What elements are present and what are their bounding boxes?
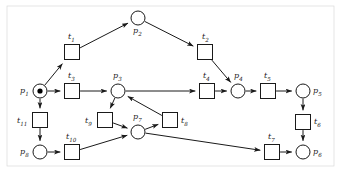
arc-p7-t7 — [146, 133, 261, 150]
arc-t10-p7 — [80, 135, 127, 149]
p2-label: p2 — [133, 27, 142, 37]
place-p5[interactable] — [296, 84, 310, 98]
token-p1 — [37, 88, 42, 93]
transition-t7[interactable] — [265, 145, 280, 160]
petri-net-graphic — [0, 0, 341, 172]
arc-t9-p7 — [113, 123, 127, 128]
t2-label: t2 — [202, 33, 209, 43]
transition-t10[interactable] — [65, 145, 80, 160]
t6-label: t6 — [314, 118, 321, 128]
p5-label: p5 — [313, 87, 322, 97]
arc-p3-t9 — [110, 98, 115, 108]
place-p6[interactable] — [296, 145, 310, 159]
place-p7[interactable] — [131, 125, 145, 139]
transition-t4[interactable] — [200, 84, 215, 99]
place-p3[interactable] — [111, 84, 125, 98]
transition-t9[interactable] — [98, 113, 113, 128]
p7-label: p7 — [133, 113, 142, 123]
transition-t3[interactable] — [65, 84, 80, 99]
p3-label: p3 — [113, 72, 122, 82]
transition-t5[interactable] — [261, 84, 276, 99]
diagram-frame — [7, 6, 334, 166]
p6-label: p6 — [313, 148, 322, 158]
transition-t11[interactable] — [33, 113, 48, 128]
petri-net-canvas: p1p2p3p4p5p6p7p8t1t2t3t4t5t6t7t8t9t10t11 — [0, 0, 341, 172]
transition-t2[interactable] — [198, 45, 213, 60]
place-p2[interactable] — [131, 11, 145, 25]
transition-t6[interactable] — [296, 115, 311, 130]
arc-p2-t2 — [145, 21, 194, 46]
arc-p1-t1 — [45, 64, 63, 85]
t11-label: t11 — [17, 117, 27, 127]
p8-label: p8 — [20, 148, 29, 158]
arc-p7-t8 — [145, 124, 158, 129]
t5-label: t5 — [264, 72, 271, 82]
t8-label: t8 — [181, 117, 188, 127]
t4-label: t4 — [203, 72, 210, 82]
arc-t1-p2 — [80, 23, 128, 48]
place-p4[interactable] — [231, 84, 245, 98]
p1-label: p1 — [20, 87, 29, 97]
place-p8[interactable] — [33, 145, 47, 159]
t3-label: t3 — [68, 72, 75, 82]
arc-t2-p4 — [212, 60, 231, 82]
p4-label: p4 — [234, 72, 243, 82]
t9-label: t9 — [85, 117, 92, 127]
transition-t1[interactable] — [65, 45, 80, 60]
t1-label: t1 — [68, 33, 75, 43]
transition-t8[interactable] — [163, 113, 178, 128]
t7-label: t7 — [268, 133, 275, 143]
t10-label: t10 — [66, 133, 76, 143]
